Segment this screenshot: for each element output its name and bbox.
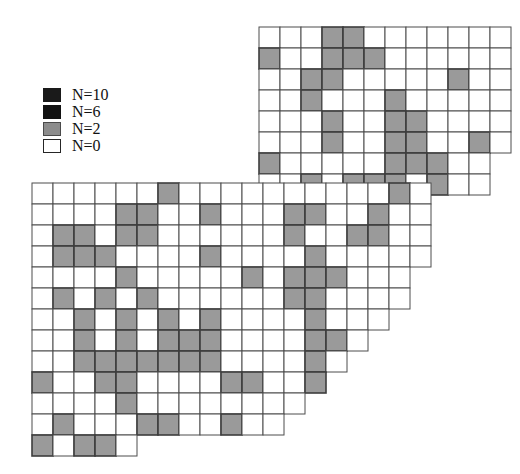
- grid-cell-empty: [53, 393, 74, 414]
- grid-cell-filled-low: [305, 309, 326, 330]
- grid-cell-empty: [322, 90, 343, 111]
- grid-cell-empty: [263, 372, 284, 393]
- grid-cell-empty: [179, 414, 200, 435]
- grid-cell-empty: [200, 414, 221, 435]
- grid-cell-filled-low: [200, 330, 221, 351]
- grid-cell-empty: [74, 183, 95, 204]
- grid-cell-empty: [179, 372, 200, 393]
- grid-cell-empty: [53, 351, 74, 372]
- grid-cell-empty: [448, 27, 469, 48]
- grid-cell-empty: [263, 288, 284, 309]
- grid-cell-filled-low: [74, 330, 95, 351]
- grid-cell-empty: [200, 225, 221, 246]
- grid-cell-empty: [179, 267, 200, 288]
- grid-cell-filled-low: [53, 414, 74, 435]
- grid-cell-filled-low: [322, 132, 343, 153]
- grid-cell-empty: [200, 372, 221, 393]
- grid-cell-filled-low: [284, 267, 305, 288]
- legend-row: N=2: [43, 120, 163, 137]
- grid-cell-empty: [263, 204, 284, 225]
- grid-cell-empty: [242, 288, 263, 309]
- grid-cell-empty: [280, 69, 301, 90]
- grid-cell-empty: [158, 393, 179, 414]
- grid-cell-empty: [326, 351, 347, 372]
- grid-cell-filled-low: [95, 372, 116, 393]
- grid-cell-empty: [259, 69, 280, 90]
- grid-cell-filled-low: [427, 153, 448, 174]
- grid-cell-empty: [200, 393, 221, 414]
- grid-cell-filled-low: [116, 309, 137, 330]
- grid-cell-filled-low: [385, 153, 406, 174]
- grid-cell-empty: [95, 414, 116, 435]
- grid-cell-empty: [263, 267, 284, 288]
- grid-cell-empty: [448, 111, 469, 132]
- grid-cell-empty: [301, 153, 322, 174]
- grid-cell-filled-low: [347, 225, 368, 246]
- grid-cell-empty: [343, 132, 364, 153]
- grid-cell-empty: [326, 246, 347, 267]
- grid-cell-empty: [410, 246, 431, 267]
- grid-cell-empty: [74, 372, 95, 393]
- grid-cell-empty: [242, 246, 263, 267]
- grid-cell-filled-low: [368, 225, 389, 246]
- grid-cell-filled-low: [305, 288, 326, 309]
- grid-cell-filled-low: [322, 111, 343, 132]
- grid-cell-empty: [158, 246, 179, 267]
- grid-cell-empty: [221, 330, 242, 351]
- grid-cell-filled-low: [322, 69, 343, 90]
- grid-cell-filled-low: [284, 288, 305, 309]
- grid-cell-empty: [410, 183, 431, 204]
- grid-cell-empty: [179, 204, 200, 225]
- grid-cell-filled-low: [284, 225, 305, 246]
- legend-label-n10: N=10: [72, 87, 109, 103]
- grid-cell-empty: [347, 183, 368, 204]
- grid-cell-empty: [347, 309, 368, 330]
- grid-cell-empty: [32, 414, 53, 435]
- grid-cell-filled-low: [137, 351, 158, 372]
- grid-cell-filled-low: [116, 372, 137, 393]
- grid-cell-empty: [242, 204, 263, 225]
- grid-cell-empty: [32, 330, 53, 351]
- grid-cell-empty: [95, 309, 116, 330]
- legend-swatch-n2: [43, 122, 61, 136]
- grid-cell-empty: [95, 225, 116, 246]
- grid-cell-filled-low: [74, 351, 95, 372]
- grid-cell-filled-low: [158, 183, 179, 204]
- grid-cell-empty: [95, 183, 116, 204]
- grid-cell-filled-low: [116, 330, 137, 351]
- grid-cell-empty: [368, 309, 389, 330]
- grid-cell-empty: [221, 246, 242, 267]
- grid-cell-empty: [53, 183, 74, 204]
- grid-cell-filled-low: [200, 246, 221, 267]
- grid-canvas: [0, 0, 520, 474]
- grid-cell-filled-low: [301, 90, 322, 111]
- grid-cell-empty: [490, 90, 511, 111]
- grid-cell-filled-low: [116, 204, 137, 225]
- grid-cell-filled-low: [406, 132, 427, 153]
- grid-cell-filled-low: [305, 330, 326, 351]
- grid-cell-empty: [280, 27, 301, 48]
- grid-cell-empty: [53, 372, 74, 393]
- grid-cell-filled-low: [406, 111, 427, 132]
- grid-cell-filled-low: [179, 330, 200, 351]
- grid-cell-empty: [95, 330, 116, 351]
- grid-cell-filled-low: [32, 435, 53, 456]
- grid-cell-filled-low: [305, 204, 326, 225]
- grid-cell-empty: [158, 372, 179, 393]
- grid-cell-empty: [406, 48, 427, 69]
- grid-cell-filled-low: [158, 414, 179, 435]
- grid-cell-empty: [263, 225, 284, 246]
- grid-cell-empty: [368, 183, 389, 204]
- grid-cell-empty: [364, 111, 385, 132]
- grid-cell-filled-low: [242, 372, 263, 393]
- grid-cell-empty: [32, 351, 53, 372]
- abundance-legend: N=10 N=6 N=2 N=0: [43, 86, 163, 154]
- grid-cell-empty: [158, 288, 179, 309]
- grid-cell-empty: [389, 288, 410, 309]
- grid-cell-filled-low: [200, 351, 221, 372]
- grid-cell-empty: [74, 288, 95, 309]
- grid-cell-filled-low: [385, 90, 406, 111]
- grid-cell-filled-low: [74, 246, 95, 267]
- grid-cell-filled-low: [368, 204, 389, 225]
- grid-cell-empty: [448, 132, 469, 153]
